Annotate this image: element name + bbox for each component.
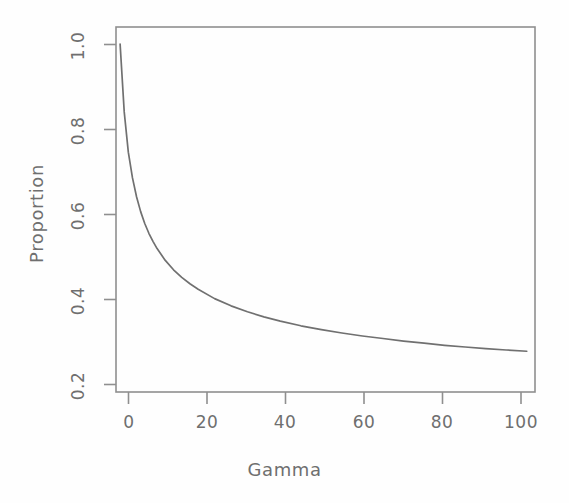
y-tick-label-0.2: 0.2 [68, 366, 88, 406]
x-axis-title: Gamma [0, 459, 569, 480]
y-axis-title: Proportion [26, 134, 47, 294]
y-axis-ticks [104, 45, 116, 385]
y-tick-label-1.0: 1.0 [68, 26, 88, 66]
x-tick-label-60: 60 [349, 412, 379, 432]
x-tick-label-100: 100 [501, 412, 541, 432]
y-tick-label-0.8: 0.8 [68, 111, 88, 151]
x-axis-ticks [129, 392, 522, 404]
x-tick-label-20: 20 [192, 412, 222, 432]
y-tick-label-0.6: 0.6 [68, 196, 88, 236]
x-tick-label-0: 0 [118, 412, 140, 432]
data-series-line [120, 44, 527, 351]
x-tick-label-40: 40 [270, 412, 300, 432]
x-tick-label-80: 80 [427, 412, 457, 432]
chart-figure: 0 20 40 60 80 100 0.2 0.4 0.6 0.8 1.0 Ga… [0, 0, 569, 503]
y-tick-label-0.4: 0.4 [68, 281, 88, 321]
plot-frame [116, 27, 535, 392]
